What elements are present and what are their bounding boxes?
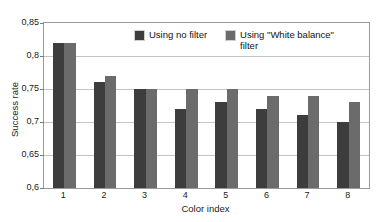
bar[interactable]	[134, 89, 145, 188]
bar[interactable]	[256, 109, 267, 188]
y-axis-tick-label: 0,7	[0, 116, 42, 126]
y-axis-tick-label: 0,75	[0, 83, 42, 93]
bar[interactable]	[186, 89, 197, 188]
bar-group	[337, 23, 360, 188]
bar[interactable]	[308, 96, 319, 188]
x-axis-tick-labels: 12345678	[43, 190, 368, 204]
y-axis-tick-label: 0,6	[0, 182, 42, 192]
bar-group	[94, 23, 117, 188]
bar[interactable]	[349, 102, 360, 188]
bar[interactable]	[64, 43, 75, 188]
x-axis-tick-label: 8	[345, 190, 350, 200]
legend-entry[interactable]: Using "White balance" filter	[225, 29, 336, 51]
legend-entry[interactable]: Using no filter	[134, 29, 207, 41]
x-axis-tick-label: 3	[142, 190, 147, 200]
x-axis-tick-label: 2	[101, 190, 106, 200]
bar-group	[53, 23, 76, 188]
bar[interactable]	[146, 89, 157, 188]
plot-area: Using no filter Using "White balance" fi…	[43, 22, 370, 189]
legend-label: Using no filter	[149, 29, 207, 40]
bar[interactable]	[267, 96, 278, 188]
legend-swatch-icon	[225, 30, 236, 41]
bar[interactable]	[175, 109, 186, 188]
legend: Using no filter Using "White balance" fi…	[134, 29, 336, 51]
y-axis-tick-labels: 0,850,80,750,70,650,6	[0, 0, 42, 222]
x-axis-tick-label: 4	[183, 190, 188, 200]
x-axis-tick-label: 1	[61, 190, 66, 200]
bar-chart: Success rate 0,850,80,750,70,650,6 Using…	[0, 0, 386, 222]
x-axis-tick-label: 7	[305, 190, 310, 200]
y-axis-tick-label: 0,85	[0, 17, 42, 27]
x-axis-title: Color index	[43, 203, 368, 214]
y-axis-tickmark	[40, 188, 44, 189]
bar[interactable]	[227, 89, 238, 188]
y-axis-tick-label: 0,8	[0, 50, 42, 60]
y-axis-tick-label: 0,65	[0, 149, 42, 159]
bar[interactable]	[105, 76, 116, 188]
legend-swatch-icon	[134, 30, 145, 41]
bar[interactable]	[53, 43, 64, 188]
bar[interactable]	[215, 102, 226, 188]
x-axis-tick-label: 6	[264, 190, 269, 200]
bar[interactable]	[337, 122, 348, 188]
x-axis-tick-label: 5	[223, 190, 228, 200]
legend-label: Using "White balance" filter	[240, 29, 336, 51]
bar[interactable]	[94, 82, 105, 188]
bar[interactable]	[297, 115, 308, 188]
